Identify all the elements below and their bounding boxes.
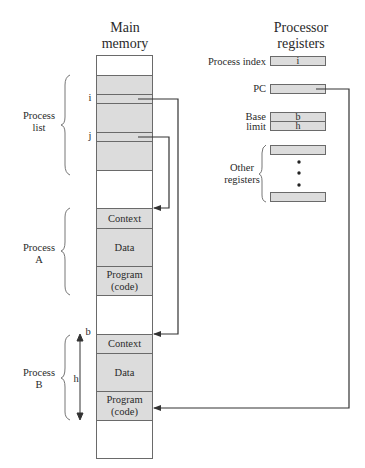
- pointer-j-arrow-icon: [138, 137, 169, 208]
- pc-arrow-icon: [154, 89, 349, 408]
- other-registers-brace-icon: [259, 145, 266, 202]
- process-list-brace-icon: [61, 75, 70, 175]
- diagram-connectors: [0, 0, 365, 468]
- h-size-arrow-icon: [77, 334, 83, 420]
- ellipsis-dots-icon: [297, 160, 300, 186]
- process-a-brace-icon: [61, 208, 70, 295]
- process-b-brace-icon: [61, 335, 70, 420]
- pointer-i-arrow-icon: [138, 99, 178, 334]
